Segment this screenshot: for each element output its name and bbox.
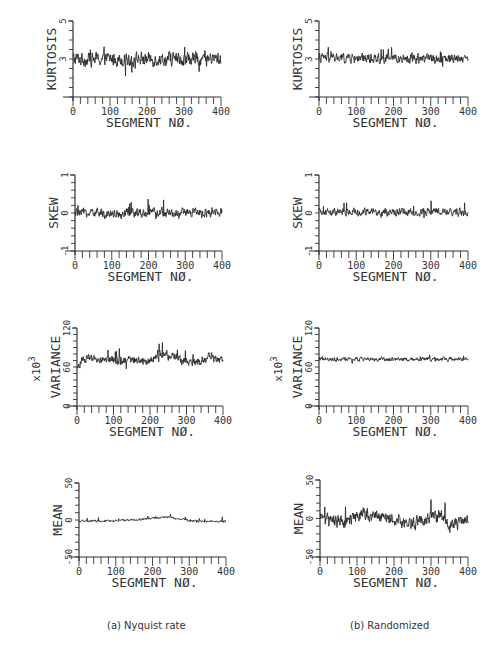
series-line-mean [79, 514, 226, 522]
x-tick-label: 0 [317, 566, 323, 577]
chart-kurtosis-randomized: 0100200300400SEGMENT NØ.53KURTOSIS [290, 18, 477, 130]
x-axis-title: SEGMENT NØ. [106, 115, 192, 130]
x-tick-label: 400 [214, 415, 232, 426]
plots-canvas: 0100200300400SEGMENT NØ.53KURTOSIS010020… [0, 0, 502, 657]
series-line-variance [319, 355, 468, 364]
x-tick-label: 400 [459, 566, 477, 577]
x-tick-label: 0 [316, 415, 322, 426]
y-tick-label: 1 [304, 172, 314, 177]
x-tick-label: 400 [459, 106, 477, 117]
y-tick-label: -1 [60, 246, 70, 257]
chart-skew-nyquist: 0100200300400SEGMENT NØ.10-1SKEW [46, 172, 231, 284]
series-line-kurtosis [73, 47, 221, 76]
series-line-skew [319, 201, 468, 218]
x-axis-title: SEGMENT NØ. [352, 424, 438, 439]
x-axis-title: SEGMENT NØ. [352, 115, 438, 130]
y-tick-label: 5 [304, 18, 314, 23]
x-tick-label: 0 [316, 106, 322, 117]
chart-variance-nyquist: 0100200300400SEGMENT NØ.120600VARIANCEx1… [27, 320, 232, 439]
y-tick-label: 120 [304, 320, 314, 336]
y-axis-title: MEAN [50, 504, 65, 535]
x-tick-label: 400 [459, 415, 477, 426]
y-axis-title: SKEW [290, 197, 305, 228]
y-axis-title: VARIANCE [290, 336, 305, 399]
y-tick-label: -50 [64, 549, 74, 565]
y-tick-label: -50 [305, 549, 315, 565]
y-tick-label: 0 [304, 210, 314, 215]
x-tick-label: 0 [74, 415, 80, 426]
x-tick-label: 0 [72, 260, 78, 271]
series-line-kurtosis [319, 47, 468, 66]
caption-nyquist-rate: (a) Nyquist rate [107, 620, 186, 631]
y-axis-title: VARIANCE [48, 336, 63, 399]
y-tick-label: 50 [64, 478, 74, 489]
y-axis-title: KURTOSIS [290, 28, 305, 91]
x-axis-title: SEGMENT NØ. [111, 575, 197, 590]
chart-skew-randomized: 0100200300400SEGMENT NØ.10-1SKEW [290, 172, 477, 284]
chart-mean-nyquist: 0100200300400SEGMENT NØ.500-50MEAN [50, 478, 235, 590]
x-axis-title: SEGMENT NØ. [109, 424, 195, 439]
y-tick-label: 3 [58, 56, 68, 61]
x-axis-title: SEGMENT NØ. [353, 575, 439, 590]
x-tick-label: 400 [213, 260, 231, 271]
x-tick-label: 400 [459, 260, 477, 271]
chart-variance-randomized: 0100200300400SEGMENT NØ.120600VARIANCEx1… [269, 320, 477, 439]
series-line-mean [320, 500, 468, 533]
x-tick-label: 400 [217, 566, 235, 577]
y-axis-title: SKEW [46, 197, 61, 228]
x-axis-title: SEGMENT NØ. [107, 269, 193, 284]
y-multiplier: x103 [27, 356, 43, 381]
chart-kurtosis-nyquist: 0100200300400SEGMENT NØ.53KURTOSIS [44, 18, 230, 130]
y-tick-label: 5 [58, 18, 68, 23]
x-tick-label: 0 [76, 566, 82, 577]
x-axis-title: SEGMENT NØ. [352, 269, 438, 284]
series-line-skew [75, 199, 222, 219]
y-tick-label: 1 [60, 172, 70, 177]
figure: 0100200300400SEGMENT NØ.53KURTOSIS010020… [0, 0, 502, 657]
chart-mean-randomized: 0100200300400SEGMENT NØ.500-50MEAN [291, 475, 477, 590]
y-tick-label: 0 [304, 403, 314, 408]
x-tick-label: 0 [70, 106, 76, 117]
y-tick-label: 60 [304, 362, 314, 373]
y-tick-label: 0 [305, 516, 315, 521]
y-axis-title: KURTOSIS [44, 28, 59, 91]
y-tick-label: 60 [62, 362, 72, 373]
x-tick-label: 400 [212, 106, 230, 117]
y-multiplier: x103 [269, 356, 285, 381]
y-tick-label: 120 [62, 320, 72, 336]
caption-randomized: (b) Randomized [350, 620, 429, 631]
series-line-variance [77, 343, 223, 369]
x-tick-label: 0 [316, 260, 322, 271]
y-tick-label: 0 [60, 210, 70, 215]
y-tick-label: 0 [62, 403, 72, 408]
y-tick-label: -1 [304, 246, 314, 257]
y-tick-label: 50 [305, 475, 315, 486]
y-tick-label: 3 [304, 56, 314, 61]
y-axis-title: MEAN [291, 503, 306, 534]
y-tick-label: 0 [64, 517, 74, 522]
